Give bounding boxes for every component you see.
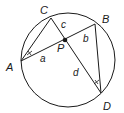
label-seg-a: a [40,53,46,64]
label-c: C [40,4,48,16]
label-seg-c: c [61,19,66,30]
label-b: B [102,13,109,25]
label-seg-d: d [73,67,79,78]
chord-cd [51,18,101,93]
label-d: D [103,100,111,112]
label-a-point: A [5,61,13,73]
label-seg-b: b [83,33,89,44]
chord-diagram: C B A D P a b c d [0,0,124,113]
label-p: P [57,42,65,54]
angle-mark-d [94,80,99,84]
